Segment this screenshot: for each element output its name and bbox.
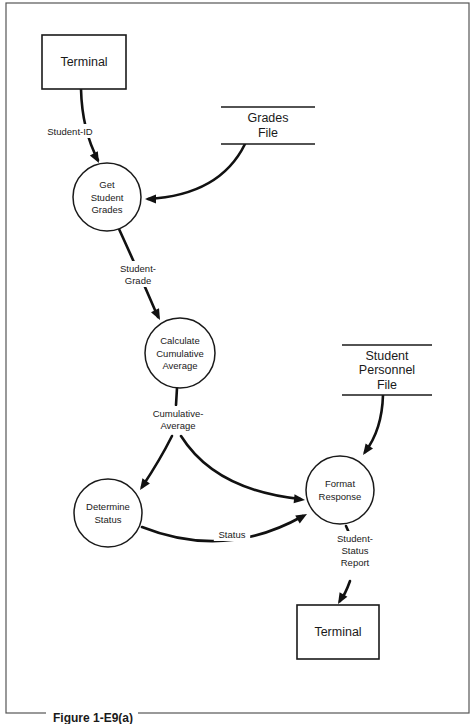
flow-line [181, 436, 300, 499]
flow-line [365, 395, 383, 452]
data-flow-diagram: Student-IDStudent-GradeCumulative-Averag… [0, 0, 472, 724]
flow-label: Status [342, 545, 369, 556]
process-label: Response [319, 491, 362, 502]
external-entity-terminal-in: Terminal [42, 35, 126, 89]
process-get-student-grades: GetStudentGrades [73, 163, 141, 231]
process-label: Status [95, 514, 122, 525]
arrowhead-icon [295, 510, 309, 523]
data-stores: GradesFileStudentPersonnelFile [221, 107, 432, 395]
process-label: Get [99, 179, 115, 190]
store-label: Student [365, 349, 409, 363]
process-label: Calculate [160, 335, 200, 346]
arrowhead-icon [151, 308, 164, 322]
data-flow-cumulative-average-to-format [181, 436, 305, 504]
flow-label: Report [341, 557, 370, 568]
process-format-response: FormatResponse [306, 456, 374, 524]
process-label: Student [91, 192, 124, 203]
data-flow-student-grade: Student-Grade [114, 229, 164, 322]
process-label: Determine [86, 501, 130, 512]
external-entity-terminal-out: Terminal [297, 605, 379, 659]
arrowhead-icon [145, 195, 156, 204]
process-label: Cumulative [156, 348, 204, 359]
data-flow-cumulative-average-to-status: Cumulative-Average [136, 388, 209, 493]
processes: GetStudentGradesCalculateCumulativeAvera… [73, 163, 374, 547]
process-label: Grades [91, 204, 122, 215]
process-calculate-cumulative-average: CalculateCumulativeAverage [145, 318, 215, 388]
flow-line [142, 388, 177, 487]
figure-caption: Figure 1-E9(a) [53, 711, 133, 724]
flow-label: Student- [120, 263, 156, 274]
flow-label: Average [160, 420, 195, 431]
arrowhead-icon [294, 494, 306, 504]
flow-label: Student- [337, 533, 373, 544]
flow-label: Cumulative- [153, 408, 204, 419]
entity-label: Terminal [60, 55, 107, 69]
store-label: Personnel [359, 363, 415, 377]
arrowhead-icon [136, 478, 150, 492]
flow-label: Grade [125, 275, 151, 286]
entity-label: Terminal [314, 625, 361, 639]
data-flow-student-id: Student-ID [41, 89, 103, 165]
data-flow-grades-file-read [145, 144, 245, 204]
flow-label: Status [219, 529, 246, 540]
data-store-student-personnel-file: StudentPersonnelFile [342, 345, 432, 395]
store-label: File [377, 378, 397, 392]
process-label: Average [162, 360, 197, 371]
process-label: Format [325, 478, 355, 489]
store-label: Grades [248, 111, 289, 125]
figure-caption-group: Figure 1-E9(a) [46, 705, 138, 724]
flow-line [148, 144, 245, 199]
data-flow-status: Status [142, 510, 309, 541]
data-store-grades-file: GradesFile [221, 107, 315, 144]
store-label: File [258, 126, 278, 140]
flow-label: Student-ID [47, 126, 93, 137]
process-determine-status: DetermineStatus [74, 479, 142, 547]
data-flow-personnel-file-read [359, 395, 383, 458]
data-flow-student-status-report: Student-StatusReport [331, 526, 378, 606]
